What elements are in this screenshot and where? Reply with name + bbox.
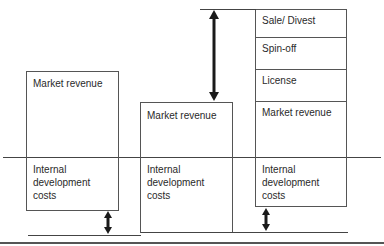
cost-difference-arrow-3-icon [0,0,384,246]
